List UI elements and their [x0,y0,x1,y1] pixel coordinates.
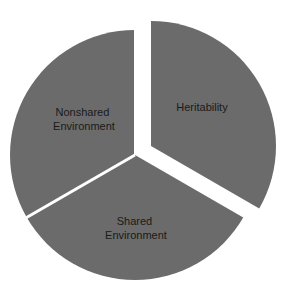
pie-slices [10,21,276,280]
label-shared-line2: Environment [105,229,167,241]
label-nonshared-line2: Environment [53,120,115,132]
pie-chart: Nonshared Environment Heritability Share… [0,0,288,296]
label-shared-line1: Shared [117,215,152,227]
label-nonshared-line1: Nonshared [56,106,110,118]
label-heritability-line1: Heritability [176,101,228,113]
label-heritability: Heritability [176,101,228,113]
